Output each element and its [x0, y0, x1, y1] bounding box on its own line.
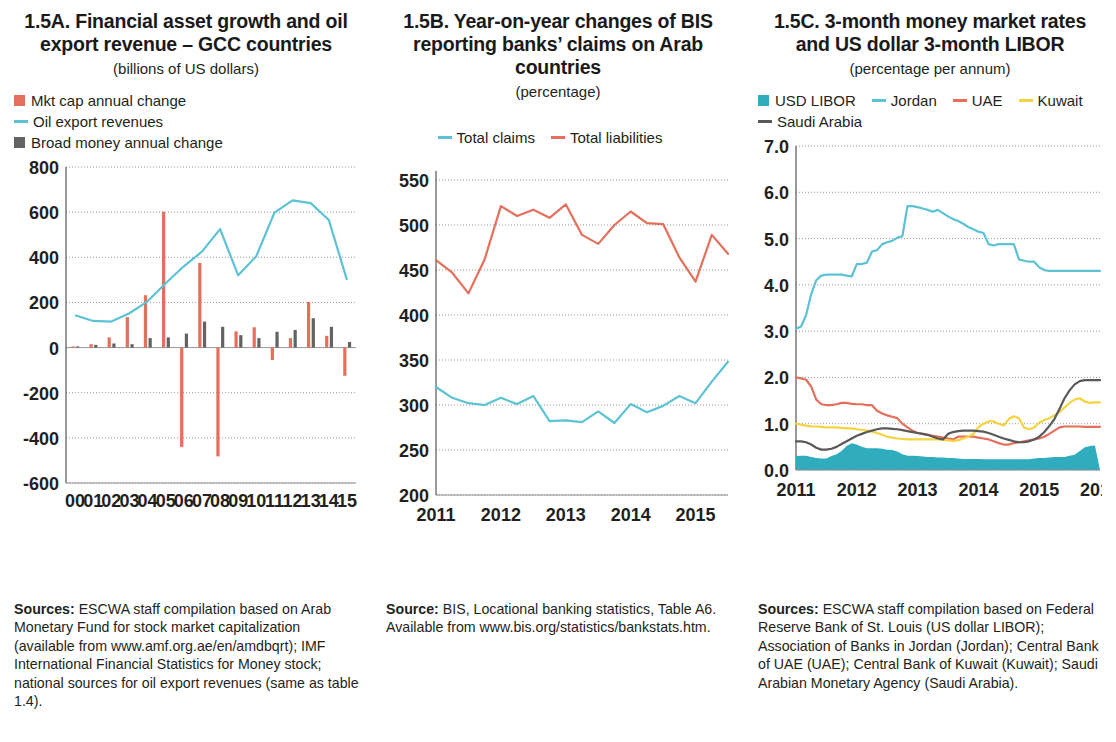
y-axis-tick-label: 0 — [49, 339, 59, 359]
y-axis-tick-label: 800 — [29, 161, 59, 178]
x-axis-tick-label: 03 — [119, 491, 139, 511]
panel-c-source: Sources: ESCWA staff compilation based o… — [758, 600, 1106, 692]
x-axis-tick-label: 10 — [246, 491, 266, 511]
bar — [112, 344, 115, 348]
legend-label: Jordan — [891, 90, 937, 111]
panel-c-subtitle: (percentage per annum) — [758, 60, 1102, 78]
panel-b-legend: Total claims Total liabilities — [386, 127, 730, 148]
bar — [94, 345, 97, 348]
y-axis-tick-label: -400 — [23, 429, 59, 449]
bar — [89, 344, 92, 347]
legend-swatch-line — [14, 120, 28, 123]
legend-item-oil-export: Oil export revenues — [14, 111, 163, 132]
x-axis-tick-label: 2013 — [898, 480, 938, 500]
legend-swatch-line — [438, 136, 452, 139]
panel-1-5b: 1.5B. Year-on-year changes of BIS report… — [372, 0, 744, 742]
legend-item-mkt-cap: Mkt cap annual change — [14, 90, 186, 111]
x-axis-tick-label: 2014 — [611, 505, 651, 525]
x-axis-tick-label: 2016 — [1080, 480, 1102, 500]
y-axis-tick-label: 550 — [399, 171, 429, 191]
x-axis-tick-label: 06 — [174, 491, 194, 511]
legend-item-kuwait: Kuwait — [1019, 90, 1083, 111]
chart-b-svg: 2002503003504004505005502011201220132014… — [386, 165, 730, 533]
bar — [185, 334, 188, 348]
source-label: Sources: — [758, 601, 819, 617]
y-axis-tick-label: 200 — [29, 293, 59, 313]
bar — [167, 337, 170, 347]
bar — [126, 317, 129, 347]
x-axis-tick-label: 01 — [83, 491, 103, 511]
panel-a-title: 1.5A. Financial asset growth and oil exp… — [14, 10, 358, 56]
x-axis-tick-label: 05 — [156, 491, 176, 511]
panel-a-legend: Mkt cap annual change Oil export revenue… — [14, 90, 358, 153]
data-area — [796, 443, 1100, 470]
legend-item-total-claims: Total claims — [438, 127, 535, 148]
y-axis-tick-label: 6.0 — [764, 183, 789, 203]
bar — [234, 331, 237, 347]
x-axis-tick-label: 13 — [301, 491, 321, 511]
panel-1-5a: 1.5A. Financial asset growth and oil exp… — [0, 0, 372, 742]
bar — [275, 332, 278, 348]
legend-swatch-line — [551, 136, 565, 139]
x-axis-tick-label: 2011 — [416, 505, 455, 525]
y-axis-tick-label: 400 — [399, 306, 429, 326]
data-line — [436, 204, 728, 293]
y-axis-tick-label: 450 — [399, 261, 429, 281]
source-label: Sources: — [14, 601, 75, 617]
legend-item-jordan: Jordan — [872, 90, 937, 111]
y-axis-tick-label: 5.0 — [764, 230, 789, 250]
legend-item-uae: UAE — [953, 90, 1003, 111]
panel-b-title: 1.5B. Year-on-year changes of BIS report… — [386, 10, 730, 79]
x-axis-tick-label: 15 — [337, 491, 357, 511]
data-line — [436, 362, 728, 423]
x-axis-tick-label: 04 — [138, 491, 158, 511]
bar — [203, 322, 206, 348]
y-axis-tick-label: 400 — [29, 248, 59, 268]
source-label: Source: — [386, 601, 439, 617]
y-axis-tick-label: 0.0 — [764, 461, 789, 481]
x-axis-tick-label: 14 — [319, 491, 339, 511]
legend-label: USD LIBOR — [775, 90, 856, 111]
bar — [162, 212, 165, 348]
bar — [76, 346, 79, 347]
panel-b-plot: 2002503003504004505005502011201220132014… — [386, 165, 730, 533]
y-axis-tick-label: 350 — [399, 351, 429, 371]
bar — [216, 348, 219, 457]
x-axis-tick-label: 07 — [192, 491, 212, 511]
data-line — [75, 200, 347, 321]
y-axis-tick-label: 2.0 — [764, 368, 789, 388]
legend-swatch-line — [1019, 99, 1033, 102]
chart-a-svg: -600-400-2000200400600800000102030405060… — [14, 161, 358, 529]
figure-1-5-page: 1.5A. Financial asset growth and oil exp… — [0, 0, 1116, 742]
bar — [330, 327, 333, 348]
x-axis-tick-label: 12 — [283, 491, 303, 511]
x-axis-tick-label: 2014 — [958, 480, 998, 500]
panel-c-title: 1.5C. 3-month money market rates and US … — [758, 10, 1102, 56]
legend-swatch-line — [953, 99, 967, 102]
panel-c-legend: USD LIBOR Jordan UAE Kuwait Sa — [758, 90, 1102, 132]
bar — [325, 336, 328, 348]
legend-swatch-square — [758, 95, 769, 106]
legend-label: UAE — [972, 90, 1003, 111]
legend-label: Saudi Arabia — [777, 111, 862, 132]
x-axis-tick-label: 09 — [228, 491, 248, 511]
legend-swatch-line — [872, 99, 886, 102]
x-axis-tick-label: 2013 — [546, 505, 586, 525]
y-axis-tick-label: 500 — [399, 216, 429, 236]
y-axis-tick-label: -600 — [23, 474, 59, 494]
panel-b-subtitle: (percentage) — [386, 83, 730, 101]
source-text: ESCWA staff compilation based on Arab Mo… — [14, 601, 359, 709]
x-axis-tick-label: 2015 — [1019, 480, 1059, 500]
legend-item-usd-libor: USD LIBOR — [758, 90, 856, 111]
y-axis-tick-label: 250 — [399, 441, 429, 461]
legend-label: Broad money annual change — [31, 132, 223, 153]
panel-b-source: Source: BIS, Locational banking statisti… — [386, 600, 734, 637]
bar — [348, 342, 351, 348]
x-axis-tick-label: 2012 — [837, 480, 877, 500]
bar — [271, 348, 274, 360]
bar — [198, 263, 201, 348]
y-axis-tick-label: 600 — [29, 203, 59, 223]
bar — [289, 338, 292, 347]
bar — [312, 318, 315, 347]
x-axis-tick-label: 08 — [210, 491, 230, 511]
